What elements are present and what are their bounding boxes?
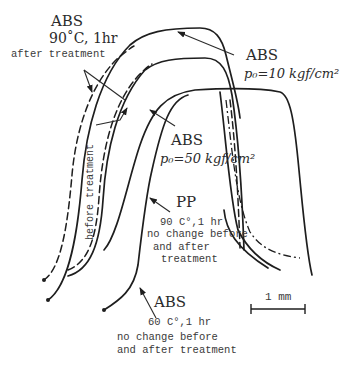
label-abs-90-title: ABS	[50, 12, 83, 30]
label-abs-60-note-2: and after treatment	[117, 344, 237, 356]
profile-abs-50	[220, 92, 300, 270]
scale-bar-label: 1 mm	[265, 291, 292, 303]
label-pp-note-1: no change before	[147, 228, 248, 240]
label-abs-90-condition: 90˚C, 1hr	[49, 30, 118, 46]
profile-diagram: ABS 90˚C, 1hr after treatment before tre…	[0, 0, 356, 366]
label-abs-10-title: ABS	[245, 46, 278, 64]
scale-bar: 1 mm	[251, 291, 305, 314]
label-pp-note-3: treatment	[161, 253, 218, 265]
label-abs-50-pressure: p₀=50 kgf/cm²	[160, 151, 255, 166]
label-abs-60-note-1: no change before	[117, 331, 218, 343]
label-abs-60-title: ABS	[153, 293, 186, 311]
leader-lines	[84, 32, 234, 318]
label-pp-condition: 90 C°,1 hr	[160, 216, 223, 228]
label-pp-note-2: and after	[153, 241, 210, 253]
label-abs-60-condition: 60 C°,1 hr	[148, 316, 211, 328]
label-abs-10-pressure: p₀=10 kgf/cm²	[244, 66, 339, 81]
label-pp-title: PP	[176, 193, 196, 211]
label-abs-50-title: ABS	[170, 131, 203, 149]
label-abs-90-note: after treatment	[11, 48, 106, 60]
label-before-treatment: before treatment	[85, 144, 96, 240]
